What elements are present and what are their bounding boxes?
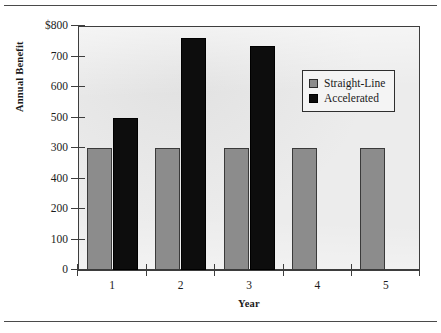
x-axis-tick-label: 4 [297, 280, 337, 292]
x-axis-title: Year [78, 298, 420, 309]
bar-straight-line-year-3 [224, 148, 249, 270]
x-axis-tick-label: 3 [229, 280, 269, 292]
y-axis-tick [71, 239, 85, 240]
y-axis-tick-label: 700 [0, 51, 68, 63]
legend-item[interactable]: Accelerated [309, 91, 385, 106]
x-axis-tick [77, 264, 78, 276]
y-axis-tick [71, 178, 85, 179]
y-axis-tick [71, 117, 85, 118]
bar-straight-line-year-4 [292, 148, 317, 270]
x-axis-tick [283, 264, 284, 276]
bar-straight-line-year-1 [87, 148, 112, 270]
y-axis-tick-label: 200 [0, 203, 68, 215]
y-axis-tick [71, 86, 85, 87]
chart-legend: Straight-LineAccelerated [302, 70, 395, 112]
x-axis-tick [146, 264, 147, 276]
x-axis-line [78, 270, 420, 271]
y-axis-tick [71, 208, 85, 209]
bar-accelerated-year-3 [250, 46, 275, 270]
y-axis-tick-label: 100 [0, 234, 68, 246]
y-axis-tick-label: 500 [0, 112, 68, 124]
bar-accelerated-year-1 [113, 118, 138, 271]
y-axis-tick-label: $800 [0, 20, 68, 32]
y-axis-tick-label: 300 [0, 142, 68, 154]
bar-straight-line-year-2 [155, 148, 180, 270]
page-rule-top [4, 5, 437, 6]
y-axis-tick-label: 600 [0, 81, 68, 93]
x-axis-tick [214, 264, 215, 276]
x-axis-tick-label: 5 [366, 280, 406, 292]
legend-item[interactable]: Straight-Line [309, 76, 385, 91]
x-axis-tick-label: 2 [161, 280, 201, 292]
legend-label: Accelerated [324, 93, 379, 105]
bar-chart-figure: Annual Benefit Year $8007006005003004002… [0, 8, 441, 318]
x-axis-tick [419, 264, 420, 276]
legend-swatch-accel [309, 94, 318, 103]
bar-straight-line-year-5 [360, 148, 385, 270]
legend-label: Straight-Line [324, 78, 385, 90]
y-axis-tick [71, 147, 85, 148]
bar-accelerated-year-2 [181, 38, 206, 270]
legend-swatch-straight [309, 79, 318, 88]
y-axis-tick [71, 25, 85, 26]
y-axis-tick [71, 56, 85, 57]
y-axis-tick-label: 400 [0, 173, 68, 185]
x-axis-tick [351, 264, 352, 276]
x-axis-tick-label: 1 [92, 280, 132, 292]
y-axis-tick-label: 0 [0, 264, 68, 276]
page-rule-bottom [4, 321, 437, 322]
